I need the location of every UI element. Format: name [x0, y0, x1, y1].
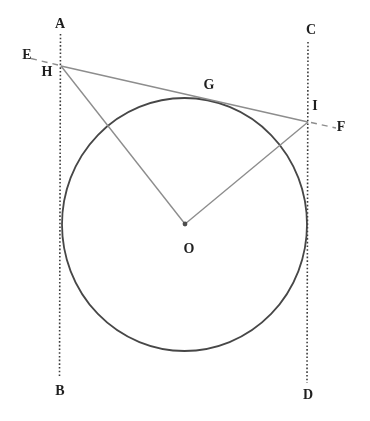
label-F: F	[337, 120, 346, 134]
label-D: D	[303, 388, 313, 402]
label-B: B	[55, 384, 64, 398]
label-G: G	[204, 78, 215, 92]
geometry-diagram: A B C D E F G H I O	[0, 0, 370, 421]
line-AB	[60, 34, 61, 378]
segment-OI	[185, 122, 308, 224]
label-H: H	[42, 65, 53, 79]
label-E: E	[22, 48, 31, 62]
label-A: A	[55, 17, 65, 31]
label-O: O	[184, 242, 195, 256]
center-point-O	[183, 222, 188, 227]
label-C: C	[306, 23, 316, 37]
diagram-canvas	[0, 0, 370, 421]
label-I: I	[312, 99, 317, 113]
dashed-segment-IF	[311, 123, 336, 129]
